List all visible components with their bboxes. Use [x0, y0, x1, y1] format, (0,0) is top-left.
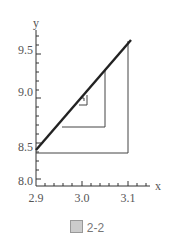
chart: y x 9.5 9.0 8.5 8.0 2.9 3.0 3.1 [0, 0, 174, 242]
y-axis-label: y [33, 16, 39, 30]
y-tick-label: 8.5 [18, 140, 33, 154]
x-tick-label: 3.0 [75, 191, 90, 205]
y-tick-label: 8.0 [18, 174, 33, 188]
y-tick-label: 9.0 [18, 85, 33, 99]
x-axis-label: x [155, 179, 161, 193]
diagonal-line [36, 40, 131, 150]
x-tick-label: 2.9 [29, 191, 44, 205]
figure-icon [70, 220, 83, 233]
figure-caption: 2-2 [0, 220, 174, 235]
y-axis-ticks [36, 36, 41, 179]
y-tick-label: 9.5 [18, 43, 33, 57]
x-axis-ticks [45, 181, 146, 186]
caption-text: 2-2 [87, 221, 104, 235]
x-tick-label: 3.1 [121, 191, 136, 205]
